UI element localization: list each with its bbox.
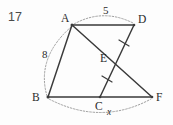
- measure-label-AD: 5: [103, 4, 109, 16]
- vertex-dot-D: [133, 24, 136, 27]
- vertex-label-B: B: [32, 91, 40, 103]
- arc-AD: [74, 16, 133, 24]
- problem-number: 17: [8, 10, 22, 24]
- vertex-label-C: C: [95, 100, 103, 112]
- vertex-label-F: F: [156, 91, 162, 103]
- geometry-figure: 17 A D B C F E 5 8 x: [0, 0, 173, 125]
- vertex-dot-C: [99, 96, 102, 99]
- vertex-label-A: A: [61, 12, 70, 24]
- measure-label-AB: 8: [42, 48, 48, 60]
- vertex-dot-A: [71, 24, 74, 27]
- vertex-label-E: E: [100, 52, 107, 64]
- segment-AF: [72, 25, 152, 97]
- vertex-label-D: D: [138, 13, 146, 25]
- vertex-dot-F: [151, 96, 154, 99]
- segment-AB: [48, 25, 72, 97]
- geometry-diagram: 17 A D B C F E 5 8 x: [0, 0, 173, 125]
- vertex-dot-B: [47, 96, 50, 99]
- measure-label-BF: x: [106, 107, 112, 117]
- arc-AB: [44, 27, 71, 96]
